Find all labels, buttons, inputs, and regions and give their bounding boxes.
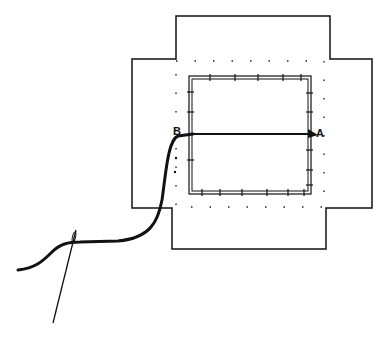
label-point-a: A bbox=[316, 127, 324, 139]
sewing-diagram bbox=[0, 0, 387, 342]
fabric-outline bbox=[132, 16, 372, 249]
thread bbox=[18, 134, 193, 270]
label-point-b: B bbox=[173, 125, 181, 137]
